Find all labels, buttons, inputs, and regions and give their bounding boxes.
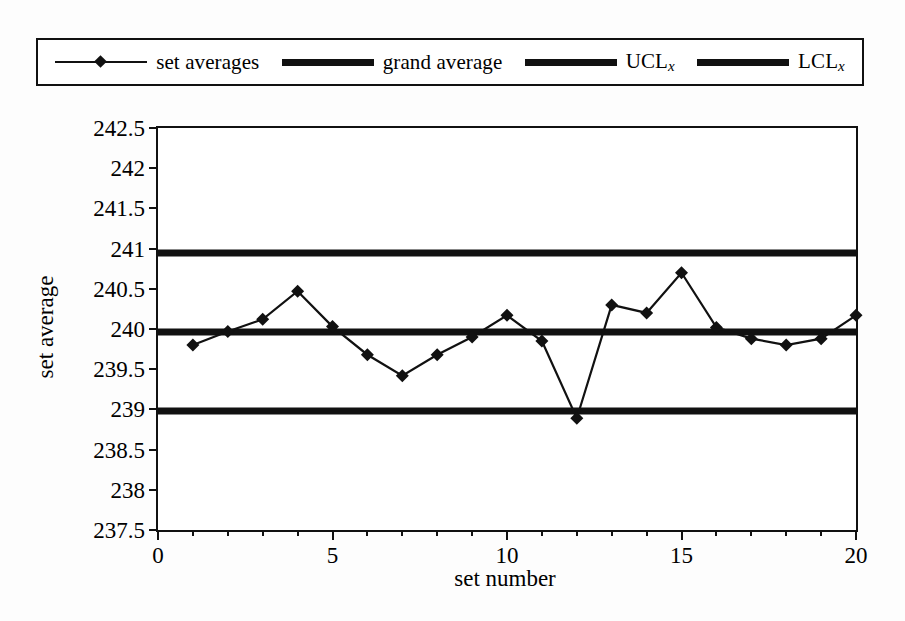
legend-label-set-averages: set averages [156, 52, 259, 73]
y-tick [149, 288, 158, 290]
x-tick-minor [820, 530, 822, 536]
x-tick-minor [750, 530, 752, 536]
x-tick-minor [715, 530, 717, 536]
thick-line-icon-grand-average [282, 59, 374, 66]
x-tick-minor [192, 530, 194, 536]
x-tick-label: 5 [327, 544, 339, 567]
data-point-marker [396, 369, 409, 382]
x-tick-minor [401, 530, 403, 536]
x-tick-major [506, 530, 508, 540]
data-point-marker [710, 321, 723, 334]
thick-line-icon-ucl [525, 59, 617, 66]
x-tick-minor [436, 530, 438, 536]
data-point-marker [186, 339, 199, 352]
y-tick-label: 238 [111, 478, 146, 501]
x-tick-minor [576, 530, 578, 536]
x-tick-minor [785, 530, 787, 536]
data-point-marker [466, 331, 479, 344]
y-tick [149, 368, 158, 370]
y-tick [149, 248, 158, 250]
legend-label-lcl-subscript: x [838, 58, 845, 74]
legend-entry-ucl: UCLx [525, 51, 675, 74]
y-tick-label: 242.5 [93, 117, 145, 140]
y-tick-label: 241 [111, 237, 146, 260]
x-axis-title: set number [454, 566, 556, 592]
data-point-marker [815, 332, 828, 345]
legend-label-lcl: LCLx [798, 51, 845, 74]
x-tick-minor [541, 530, 543, 536]
y-axis-title: set average [33, 276, 59, 379]
thick-line-icon-lcl [697, 59, 789, 66]
y-tick-label: 239.5 [93, 358, 145, 381]
y-tick-label: 238.5 [93, 438, 145, 461]
x-tick-minor [227, 530, 229, 536]
x-tick-minor [611, 530, 613, 536]
y-tick [149, 489, 158, 491]
legend-label-ucl-subscript: x [668, 58, 675, 74]
y-tick [149, 449, 158, 451]
y-tick-label: 241.5 [93, 197, 145, 220]
x-tick-minor [471, 530, 473, 536]
data-point-marker [780, 339, 793, 352]
diamond-marker-line-icon [55, 54, 147, 70]
legend-label-ucl: UCLx [626, 51, 675, 74]
x-tick-minor [366, 530, 368, 536]
data-point-marker [850, 309, 863, 322]
data-point-marker [745, 332, 758, 345]
legend-entry-grand-average: grand average [282, 52, 503, 73]
x-tick-major [855, 530, 857, 540]
legend-entry-set-averages: set averages [55, 52, 259, 73]
x-tick-label: 20 [845, 544, 868, 567]
x-tick-label: 0 [152, 544, 164, 567]
x-tick-minor [297, 530, 299, 536]
y-tick-label: 240 [111, 318, 146, 341]
data-point-marker [431, 348, 444, 361]
chart-legend: set averages grand average UCLx LCLx [36, 38, 864, 86]
legend-label-lcl-text: LCL [798, 49, 838, 73]
y-tick-label: 242 [111, 157, 146, 180]
x-tick-major [332, 530, 334, 540]
series-set-averages [158, 128, 856, 530]
x-tick-major [681, 530, 683, 540]
y-tick [149, 408, 158, 410]
chart-figure: set averages grand average UCLx LCLx set… [0, 0, 905, 621]
plot-inner: 242.5242241.5241240.5240239.5239238.5238… [158, 128, 856, 530]
y-tick-label: 240.5 [93, 277, 145, 300]
data-point-marker [570, 412, 583, 425]
data-point-marker [221, 325, 234, 338]
y-tick-label: 237.5 [93, 519, 145, 542]
x-tick-label: 10 [496, 544, 519, 567]
y-tick [149, 127, 158, 129]
x-tick-minor [262, 530, 264, 536]
x-tick-minor [646, 530, 648, 536]
legend-entry-lcl: LCLx [697, 51, 845, 74]
legend-label-grand-average: grand average [383, 52, 503, 73]
y-tick [149, 167, 158, 169]
legend-label-ucl-text: UCL [626, 49, 668, 73]
x-tick-label: 15 [670, 544, 693, 567]
plot-area: 242.5242241.5241240.5240239.5239238.5238… [156, 126, 858, 532]
y-tick-label: 239 [111, 398, 146, 421]
y-tick [149, 328, 158, 330]
data-point-marker [605, 298, 618, 311]
x-tick-major [157, 530, 159, 540]
y-tick [149, 207, 158, 209]
